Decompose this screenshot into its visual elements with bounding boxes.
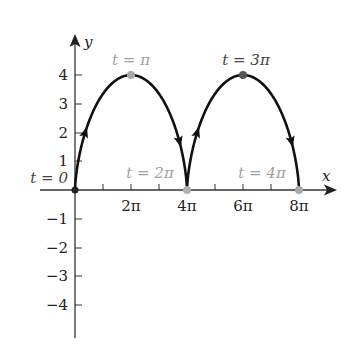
- annotation-t0: t = 0: [30, 169, 68, 187]
- point-t0: [72, 187, 79, 194]
- y-tick-label-1: 1: [58, 152, 68, 170]
- cycloid-diagram: x y 2π 4π 6π 8π 4 3 2 1 −1 −2 −3 −4: [0, 0, 354, 349]
- x-tick-labels: 2π 4π 6π 8π: [121, 197, 309, 215]
- y-tick-label-neg2: −2: [46, 239, 68, 257]
- annotation-t-3pi: t = 3π: [222, 51, 271, 69]
- x-tick-label-8pi: 8π: [289, 197, 309, 215]
- axes: x y: [40, 33, 337, 338]
- y-tick-label-neg1: −1: [46, 210, 68, 228]
- x-tick-label-2pi: 2π: [121, 197, 141, 215]
- direction-arrow-icon: [191, 125, 203, 138]
- annotation-t-4pi: t = 4π: [238, 164, 287, 182]
- y-tick-label-4: 4: [58, 66, 68, 84]
- direction-arrows: [79, 125, 297, 148]
- annotation-t-pi: t = π: [112, 51, 151, 69]
- x-tick-label-6pi: 6π: [233, 197, 253, 215]
- direction-arrow-icon: [79, 125, 91, 138]
- y-tick-label-3: 3: [58, 95, 68, 113]
- x-ticks: [103, 184, 299, 190]
- x-tick-label-4pi: 4π: [177, 197, 197, 215]
- point-t-pi: [127, 71, 135, 79]
- y-tick-label-neg4: −4: [46, 296, 68, 314]
- y-tick-label-neg3: −3: [46, 267, 68, 285]
- x-axis-label: x: [322, 167, 331, 185]
- y-tick-label-2: 2: [58, 124, 68, 142]
- point-t-2pi: [183, 186, 191, 194]
- point-t-3pi: [239, 71, 247, 79]
- y-axis-label: y: [83, 33, 93, 51]
- point-t-4pi: [295, 186, 303, 194]
- annotation-t-2pi: t = 2π: [126, 164, 175, 182]
- annotations: t = 0 t = π t = 2π t = 3π t = 4π: [30, 51, 287, 187]
